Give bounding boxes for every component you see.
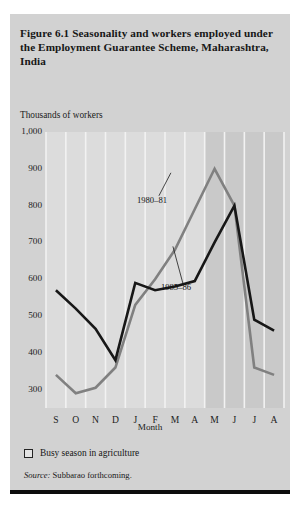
y-tick-400: 400 bbox=[10, 347, 42, 357]
y-tick-700: 700 bbox=[10, 236, 42, 246]
annotation-1985-86: 1985–86 bbox=[161, 282, 191, 292]
legend-label: Busy season in agriculture bbox=[40, 448, 139, 458]
y-tick-300: 300 bbox=[10, 384, 42, 394]
annotation-1980-81: 1980–81 bbox=[137, 195, 167, 205]
x-axis-title: Month bbox=[10, 422, 290, 432]
legend-swatch-icon bbox=[24, 449, 33, 458]
figure-panel: Figure 6.1 Seasonality and workers emplo… bbox=[10, 14, 290, 494]
y-tick-800: 800 bbox=[10, 200, 42, 210]
y-tick-500: 500 bbox=[10, 310, 42, 320]
source-label: Source: bbox=[24, 470, 50, 480]
chart-plot-area: 3004005006007008009001,000 SONDJFMAMJJA … bbox=[10, 14, 290, 494]
figure-rule-bottom bbox=[10, 490, 290, 494]
legend-busy-season: Busy season in agriculture bbox=[24, 448, 139, 458]
source-note: Source: Subbarao forthcoming. bbox=[24, 470, 132, 480]
source-text: Subbarao forthcoming. bbox=[53, 470, 132, 480]
y-tick-1000: 1,000 bbox=[10, 126, 42, 136]
y-tick-900: 900 bbox=[10, 163, 42, 173]
y-tick-600: 600 bbox=[10, 273, 42, 283]
